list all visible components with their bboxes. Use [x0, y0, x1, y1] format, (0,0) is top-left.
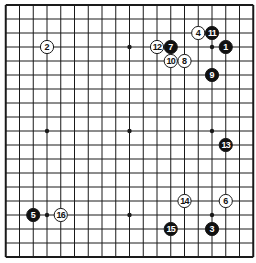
star-point [127, 129, 131, 133]
move-number: 7 [168, 42, 173, 52]
move-number: 15 [167, 224, 176, 234]
stone-black-15: 15 [164, 222, 177, 235]
stone-black-5: 5 [27, 208, 40, 221]
stone-black-13: 13 [219, 138, 232, 151]
stone-black-9: 9 [205, 68, 218, 81]
star-point [127, 45, 131, 49]
move-number: 5 [31, 210, 36, 220]
move-number: 16 [57, 210, 66, 220]
move-number: 6 [223, 196, 228, 206]
stone-white-14: 14 [178, 194, 191, 207]
star-point [45, 213, 49, 217]
star-point [45, 129, 49, 133]
stone-white-8: 8 [178, 54, 191, 67]
stone-black-7: 7 [164, 40, 177, 53]
star-point [127, 213, 131, 217]
star-point [210, 129, 214, 133]
star-point [210, 213, 214, 217]
stone-white-10: 10 [164, 54, 177, 67]
stone-black-1: 1 [219, 40, 232, 53]
move-number: 9 [209, 70, 214, 80]
move-number: 3 [209, 224, 214, 234]
stone-black-11: 11 [205, 26, 218, 39]
stone-white-16: 16 [54, 208, 67, 221]
stone-white-4: 4 [192, 26, 205, 39]
move-number: 13 [222, 140, 231, 150]
move-number: 11 [208, 28, 217, 38]
move-number: 8 [182, 56, 187, 66]
go-board: 12345678910111213141516 [0, 0, 256, 263]
move-number: 4 [196, 28, 201, 38]
move-number: 12 [153, 42, 162, 52]
stone-white-2: 2 [40, 40, 53, 53]
stone-black-3: 3 [205, 222, 218, 235]
stone-white-12: 12 [150, 40, 163, 53]
star-point [210, 45, 214, 49]
stone-white-6: 6 [219, 194, 232, 207]
move-number: 14 [180, 196, 189, 206]
move-number: 1 [223, 42, 228, 52]
move-number: 2 [44, 42, 49, 52]
move-number: 10 [167, 56, 176, 66]
